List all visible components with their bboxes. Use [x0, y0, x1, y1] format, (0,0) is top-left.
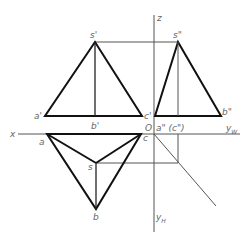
projection-diagram: z x O yW yH s' a' b' c' s" b" a" (c") a …	[0, 0, 249, 238]
z-axis-label: z	[156, 13, 162, 23]
label-ac-double-prime: a" (c")	[156, 123, 185, 133]
origin-label: O	[145, 123, 152, 133]
top-view-triangle	[47, 134, 141, 209]
miter-line	[154, 134, 216, 206]
label-c-prime: c'	[144, 111, 151, 121]
label-a-prime: a'	[34, 111, 42, 121]
label-a: a	[39, 137, 45, 147]
top-view-edge-sa	[47, 134, 96, 163]
x-axis-label: x	[9, 129, 16, 139]
label-s-double-prime: s"	[173, 30, 182, 40]
yh-axis-label: yH	[155, 212, 166, 224]
front-view-triangle	[45, 42, 142, 116]
top-view-edge-sc	[96, 134, 141, 163]
label-s: s	[88, 162, 93, 172]
label-b: b	[93, 212, 99, 222]
label-c: c	[143, 133, 148, 143]
label-s-prime: s'	[90, 30, 97, 40]
label-b-prime: b'	[91, 121, 99, 131]
side-view-triangle	[155, 42, 221, 116]
label-b-double-prime: b"	[222, 107, 232, 117]
yw-axis-label: yW	[225, 123, 238, 135]
